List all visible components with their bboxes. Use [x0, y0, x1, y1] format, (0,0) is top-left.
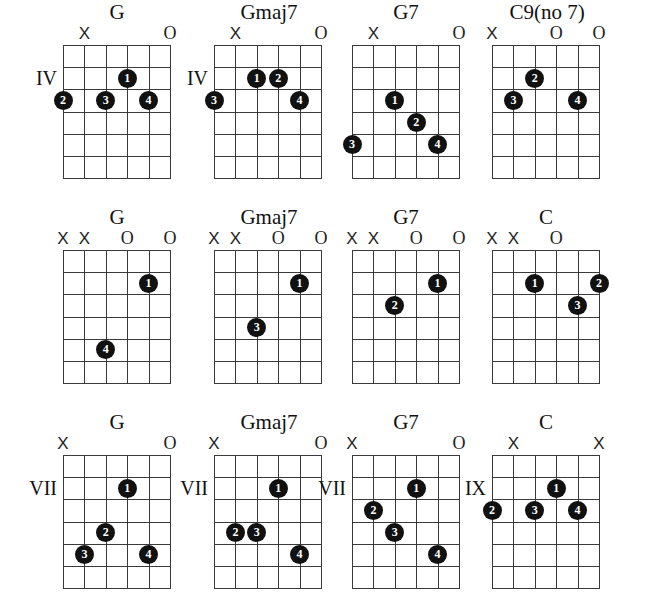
string-markers: XOO — [492, 24, 600, 44]
fretboard-grid: 13 — [214, 250, 321, 383]
finger-dot: 1 — [118, 69, 137, 88]
fret-position-label: IX — [450, 477, 486, 499]
finger-dot: 1 — [525, 274, 544, 293]
fret-line — [352, 361, 460, 362]
fretboard-grid: 1234 — [352, 45, 459, 178]
finger-dot: 4 — [428, 135, 447, 154]
fret-position-label: VII — [310, 477, 346, 499]
finger-dot: 4 — [139, 545, 158, 564]
fret-line — [214, 339, 322, 340]
chord-row: GXOIV1234Gmaj7XOIV1234G7XO1234C9(no 7)XO… — [0, 0, 645, 205]
open-string-icon: O — [548, 229, 564, 248]
muted-string-icon: X — [505, 229, 521, 248]
fret-line — [63, 522, 171, 523]
finger-dot: 3 — [385, 523, 404, 542]
finger-dot: 3 — [343, 135, 362, 154]
fretboard-grid: 123 — [492, 250, 599, 383]
fret-line — [214, 361, 322, 362]
finger-dot: 1 — [247, 69, 266, 88]
finger-dot: 3 — [568, 296, 587, 315]
open-string-icon: O — [591, 24, 607, 43]
nut-line — [63, 250, 171, 251]
fret-line — [63, 317, 171, 318]
finger-dot: 2 — [590, 274, 609, 293]
string-markers: XXOO — [63, 229, 171, 249]
muted-string-icon: X — [206, 229, 222, 248]
muted-string-icon: X — [76, 229, 92, 248]
fret-line — [352, 89, 460, 90]
finger-dot: 3 — [75, 545, 94, 564]
open-string-icon: O — [270, 229, 286, 248]
fret-line — [214, 544, 322, 545]
chord-name: C9(no 7) — [472, 0, 622, 24]
fret-line — [352, 339, 460, 340]
fret-line — [492, 317, 600, 318]
open-string-icon: O — [313, 229, 329, 248]
fret-line — [214, 566, 322, 567]
muted-string-icon: X — [591, 434, 607, 453]
fret-line — [492, 339, 600, 340]
fret-line — [214, 383, 322, 384]
fret-line — [492, 544, 600, 545]
nut-line — [492, 45, 600, 46]
fret-line — [63, 178, 171, 179]
fret-line — [63, 544, 171, 545]
muted-string-icon: X — [484, 229, 500, 248]
fret-line — [492, 566, 600, 567]
muted-string-icon: X — [227, 229, 243, 248]
fret-line — [214, 499, 322, 500]
fret-line — [492, 383, 600, 384]
finger-dot: 2 — [54, 91, 73, 110]
nut-line — [492, 250, 600, 251]
fret-line — [492, 499, 600, 500]
fretboard-grid: 1234 — [492, 455, 599, 588]
muted-string-icon: X — [55, 229, 71, 248]
chord-name: G7 — [352, 410, 460, 434]
finger-dot: 3 — [205, 91, 224, 110]
fret-line — [492, 477, 600, 478]
chord-name: G7 — [352, 205, 460, 229]
chord-name: Gmaj7 — [194, 0, 344, 24]
fret-line — [214, 522, 322, 523]
finger-dot: 1 — [269, 479, 288, 498]
fret-position-label: VII — [21, 477, 57, 499]
fretboard-grid: 1234 — [214, 45, 321, 178]
fretboard-grid: 14 — [63, 250, 170, 383]
fret-line — [352, 588, 460, 589]
muted-string-icon: X — [227, 24, 243, 43]
nut-line — [214, 45, 322, 46]
fret-line — [492, 272, 600, 273]
fret-line — [63, 134, 171, 135]
open-string-icon: O — [451, 434, 467, 453]
fret-line — [352, 67, 460, 68]
fret-line — [63, 294, 171, 295]
open-string-icon: O — [162, 24, 178, 43]
finger-dot: 3 — [504, 91, 523, 110]
finger-dot: 1 — [428, 274, 447, 293]
nut-line — [214, 455, 322, 456]
fret-line — [352, 294, 460, 295]
open-string-icon: O — [119, 229, 135, 248]
fret-line — [492, 112, 600, 113]
string-markers: XX — [492, 434, 600, 454]
finger-dot: 2 — [525, 69, 544, 88]
fret-line — [492, 134, 600, 135]
fret-line — [352, 272, 460, 273]
finger-dot: 2 — [385, 296, 404, 315]
nut-line — [352, 455, 460, 456]
string-markers: XXOO — [214, 229, 322, 249]
fret-line — [492, 294, 600, 295]
finger-dot: 4 — [568, 91, 587, 110]
fret-line — [352, 544, 460, 545]
muted-string-icon: X — [206, 434, 222, 453]
finger-dot: 4 — [96, 340, 115, 359]
muted-string-icon: X — [484, 24, 500, 43]
fret-line — [214, 156, 322, 157]
fret-line — [214, 588, 322, 589]
finger-dot: 2 — [364, 501, 383, 520]
chord-name: G — [63, 0, 171, 24]
chord-name: G7 — [352, 0, 460, 24]
finger-dot: 1 — [547, 479, 566, 498]
string-markers: XO — [63, 434, 171, 454]
string-markers: XO — [352, 24, 460, 44]
